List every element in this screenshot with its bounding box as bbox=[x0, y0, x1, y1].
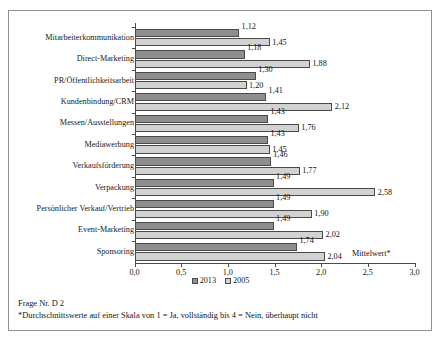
category-label: PR/Öffentlichkeitsarbeit bbox=[16, 76, 134, 86]
note-question: Frage Nr. D 2 bbox=[18, 298, 418, 310]
bar-2013-10 bbox=[135, 222, 274, 230]
bar-2013-9 bbox=[135, 200, 274, 208]
bar-value-label: 1,46 bbox=[273, 150, 287, 159]
x-axis-title: Mittelwert* bbox=[352, 249, 391, 258]
category-label: Direct-Marketing bbox=[16, 54, 134, 64]
category-label-wrap: Sponsoring bbox=[16, 247, 134, 257]
bar-value-label: 1,43 bbox=[270, 107, 284, 116]
category-label: Mitarbeiterkommunikation bbox=[16, 33, 134, 43]
note-footnote: *Durchschnittswerte auf einer Skala von … bbox=[18, 310, 418, 322]
bar-value-label: 2,58 bbox=[378, 188, 392, 197]
bar-value-label: 1,30 bbox=[258, 65, 272, 74]
bar-value-label: 1,74 bbox=[299, 236, 313, 245]
bar-value-label: 1,77 bbox=[302, 166, 316, 175]
bar-2005-11 bbox=[135, 252, 325, 260]
bar-value-label: 1,20 bbox=[249, 81, 263, 90]
bar-2005-4 bbox=[135, 103, 333, 111]
bar-value-label: 1,12 bbox=[242, 22, 256, 31]
chart-notes: Frage Nr. D 2 *Durchschnittswerte auf ei… bbox=[18, 298, 418, 321]
bar-2013-3 bbox=[135, 72, 256, 80]
category-label-wrap: Kundenbindung/CRM bbox=[16, 97, 134, 107]
bar-value-label: 1,49 bbox=[276, 193, 290, 202]
bar-value-label: 1,43 bbox=[270, 129, 284, 138]
bar-2013-4 bbox=[135, 93, 267, 101]
x-axis-tick bbox=[228, 264, 229, 267]
y-axis-tick bbox=[132, 155, 135, 156]
legend-item-2013: 2013 bbox=[192, 276, 216, 285]
category-label: Event-Marketing bbox=[16, 225, 134, 235]
x-axis-tick bbox=[415, 264, 416, 267]
bar-2005-8 bbox=[135, 188, 376, 196]
chart-page: 0,00,51,01,52,02,53,0Mittelwert*Mitarbei… bbox=[0, 0, 441, 343]
category-label-wrap: Messen/Ausstellungen bbox=[16, 118, 134, 128]
chart-plot-area: 0,00,51,01,52,02,53,0Mittelwert*Mitarbei… bbox=[0, 0, 441, 343]
x-axis-tick bbox=[181, 264, 182, 267]
y-axis-tick bbox=[132, 48, 135, 49]
y-axis-tick bbox=[132, 134, 135, 135]
bar-2005-7 bbox=[135, 167, 300, 175]
category-label: Kundenbindung/CRM bbox=[16, 97, 134, 107]
bar-value-label: 1,49 bbox=[276, 214, 290, 223]
y-axis-tick bbox=[132, 27, 135, 28]
category-label-wrap: Direct-Marketing bbox=[16, 54, 134, 64]
bar-2013-7 bbox=[135, 157, 271, 165]
bar-value-label: 1,18 bbox=[247, 43, 261, 52]
bar-value-label: 2,02 bbox=[326, 230, 340, 239]
bar-value-label: 1,88 bbox=[312, 59, 326, 68]
legend-label-2013: 2013 bbox=[200, 276, 216, 285]
bar-value-label: 2,04 bbox=[327, 252, 341, 261]
category-label-wrap: Mitarbeiterkommunikation bbox=[16, 33, 134, 43]
category-label: Verkaufsförderung bbox=[16, 161, 134, 171]
bar-2005-3 bbox=[135, 81, 247, 89]
category-label-wrap: Verpackung bbox=[16, 183, 134, 193]
legend-item-2005: 2005 bbox=[225, 276, 249, 285]
chart-legend: 2013 2005 bbox=[0, 276, 441, 285]
bar-2005-10 bbox=[135, 231, 324, 239]
y-axis-tick bbox=[132, 198, 135, 199]
bar-value-label: 2,12 bbox=[335, 102, 349, 111]
category-label: Mediawerbung bbox=[16, 140, 134, 150]
category-label-wrap: Persönlicher Verkauf/Vertrieb bbox=[16, 204, 134, 214]
bar-2013-8 bbox=[135, 179, 274, 187]
bar-2013-2 bbox=[135, 50, 245, 58]
bar-2005-2 bbox=[135, 60, 310, 68]
category-label-wrap: Mediawerbung bbox=[16, 140, 134, 150]
bar-2005-6 bbox=[135, 145, 270, 153]
category-label-wrap: Event-Marketing bbox=[16, 225, 134, 235]
category-label-wrap: PR/Öffentlichkeitsarbeit bbox=[16, 76, 134, 86]
legend-swatch-2005-icon bbox=[225, 278, 231, 284]
x-axis-tick bbox=[135, 264, 136, 267]
y-axis-tick bbox=[132, 241, 135, 242]
bar-value-label: 1,90 bbox=[314, 209, 328, 218]
legend-swatch-2013-icon bbox=[192, 278, 198, 284]
bar-value-label: 1,41 bbox=[269, 86, 283, 95]
category-label: Sponsoring bbox=[16, 247, 134, 257]
bar-2013-6 bbox=[135, 136, 268, 144]
y-axis-tick bbox=[132, 91, 135, 92]
x-axis-tick bbox=[321, 264, 322, 267]
bar-value-label: 1,76 bbox=[301, 123, 315, 132]
x-axis-tick bbox=[275, 264, 276, 267]
bar-value-label: 1,45 bbox=[272, 38, 286, 47]
category-label: Messen/Ausstellungen bbox=[16, 118, 134, 128]
category-label: Persönlicher Verkauf/Vertrieb bbox=[16, 204, 134, 214]
bar-2013-5 bbox=[135, 115, 268, 123]
legend-label-2005: 2005 bbox=[233, 276, 249, 285]
x-axis-tick bbox=[368, 264, 369, 267]
category-label-wrap: Verkaufsförderung bbox=[16, 161, 134, 171]
bar-value-label: 1,49 bbox=[276, 172, 290, 181]
bar-2013-1 bbox=[135, 29, 240, 37]
category-label: Verpackung bbox=[16, 183, 134, 193]
bar-2013-11 bbox=[135, 243, 297, 251]
